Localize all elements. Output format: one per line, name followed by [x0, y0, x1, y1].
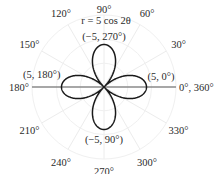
point-annotation: (5, 180°)	[23, 69, 61, 81]
grid-spoke	[104, 87, 166, 123]
polar-rose-chart: 0°, 360°30°60°90°120°150°180°210°240°270…	[0, 0, 215, 174]
point-annotation: (−5, 90°)	[85, 134, 124, 146]
angle-tick-label: 0°, 360°	[179, 82, 214, 93]
angle-tick-label: 240°	[51, 157, 71, 168]
angle-tick-label: 90°	[97, 4, 112, 15]
angle-tick-label: 270°	[94, 166, 114, 174]
angular-tick-labels: 0°, 360°30°60°90°120°150°180°210°240°270…	[9, 4, 214, 174]
point-annotation: (−5, 270°)	[82, 31, 126, 43]
angle-tick-label: 120°	[51, 8, 71, 19]
equation-label: r = 5 cos 2θ	[81, 15, 130, 26]
angle-tick-label: 150°	[20, 39, 40, 50]
angle-tick-label: 210°	[20, 125, 40, 136]
angle-tick-label: 330°	[169, 125, 189, 136]
grid-spoke	[42, 87, 104, 123]
angle-tick-label: 60°	[140, 8, 155, 19]
angle-tick-label: 300°	[137, 157, 157, 168]
angle-tick-label: 180°	[9, 82, 29, 93]
angle-tick-label: 30°	[171, 39, 186, 50]
point-annotation: (5, 0°)	[148, 71, 175, 83]
